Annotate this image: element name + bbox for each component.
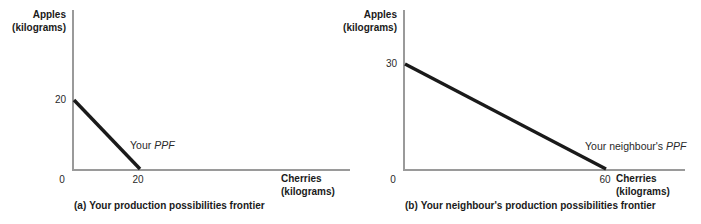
- caption-text: Your production possibilities frontier: [89, 200, 264, 211]
- panel-caption-a: (a)Your production possibilities frontie…: [74, 200, 265, 211]
- ppf-line-a: [0, 0, 350, 224]
- series-annotation-b: Your neighbour's PPF: [585, 140, 686, 152]
- ppf-figure: Apples (kilograms) Cherries (kilograms) …: [0, 0, 701, 224]
- series-label-italic: PPF: [154, 139, 174, 151]
- panel-your-ppf: Apples (kilograms) Cherries (kilograms) …: [0, 0, 350, 224]
- series-annotation-a: Your PPF: [130, 139, 175, 151]
- panel-neighbour-ppf: Apples (kilograms) Cherries (kilograms) …: [351, 0, 701, 224]
- caption-number: (a): [74, 200, 86, 211]
- panel-caption-b: (b)Your neighbour's production possibili…: [405, 200, 656, 211]
- caption-text: Your neighbour's production possibilitie…: [421, 200, 656, 211]
- ppf-line-b: [351, 0, 701, 224]
- caption-number: (b): [405, 200, 418, 211]
- series-label-prefix: Your: [130, 139, 154, 151]
- series-label-italic: PPF: [666, 140, 686, 152]
- series-label-prefix: Your neighbour's: [585, 140, 666, 152]
